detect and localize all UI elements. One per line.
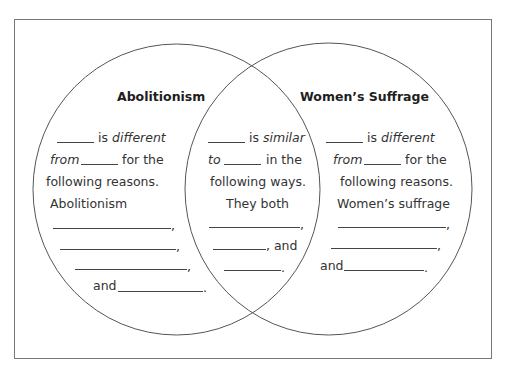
middle-line1-italic: similar <box>263 130 305 145</box>
left-blank-2[interactable] <box>81 164 118 165</box>
right-line2-text: for the <box>405 153 447 167</box>
middle-and-label: , and <box>266 239 297 253</box>
right-comma-1: , <box>446 218 450 232</box>
left-line2-text: for the <box>122 153 164 167</box>
left-blank-5[interactable] <box>75 269 187 270</box>
middle-line1-text: is <box>249 130 259 145</box>
left-line1: is different <box>98 131 166 145</box>
left-line2-italic: from <box>50 153 79 167</box>
left-blank-1[interactable] <box>57 142 94 143</box>
right-period: . <box>424 261 428 275</box>
left-and-label: and <box>93 279 117 293</box>
left-line1-text: is <box>98 130 108 145</box>
middle-line2-italic: to <box>208 153 221 167</box>
womens-suffrage-title: Women’s Suffrage <box>300 90 429 104</box>
abolitionism-title: Abolitionism <box>117 90 205 104</box>
left-blank-3[interactable] <box>53 228 171 229</box>
right-line2-italic: from <box>333 153 362 167</box>
left-line3: following reasons. <box>46 175 159 189</box>
left-line1-italic: different <box>112 130 166 145</box>
right-line3: following reasons. <box>340 175 453 189</box>
middle-blank-5[interactable] <box>224 270 281 271</box>
middle-blank-2[interactable] <box>224 164 261 165</box>
left-comma-1: , <box>171 219 175 233</box>
right-blank-5[interactable] <box>344 270 424 271</box>
right-comma-2: , <box>437 239 441 253</box>
middle-comma: , <box>300 218 304 232</box>
left-comma-3: , <box>187 260 191 274</box>
right-line4: Women’s suffrage <box>337 197 450 211</box>
right-blank-2[interactable] <box>364 164 401 165</box>
middle-blank-4[interactable] <box>213 249 266 250</box>
left-line4: Abolitionism <box>50 197 127 211</box>
right-and-label: and <box>320 259 344 273</box>
right-blank-4[interactable] <box>331 248 437 249</box>
middle-period: . <box>281 261 285 275</box>
middle-blank-3[interactable] <box>209 227 300 228</box>
left-blank-6[interactable] <box>118 291 203 292</box>
middle-line2-text: in the <box>266 153 302 167</box>
middle-line4: They both <box>226 197 289 211</box>
right-blank-3[interactable] <box>338 227 446 228</box>
middle-blank-1[interactable] <box>208 142 245 143</box>
left-period: . <box>203 281 207 295</box>
right-line1: is different <box>367 131 435 145</box>
frame-border <box>15 20 492 359</box>
right-line1-text: is <box>367 130 377 145</box>
middle-line3: following ways. <box>210 175 306 189</box>
left-blank-4[interactable] <box>60 249 176 250</box>
right-blank-1[interactable] <box>326 142 363 143</box>
right-line1-italic: different <box>381 130 435 145</box>
middle-line1: is similar <box>249 131 305 145</box>
left-comma-2: , <box>176 240 180 254</box>
womens-suffrage-circle <box>185 43 472 335</box>
